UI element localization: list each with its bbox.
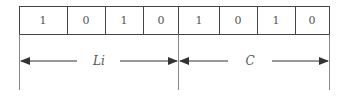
bit-cell-2: 1 [121, 14, 128, 27]
bit-cell-1: 0 [83, 14, 90, 27]
bit-field-diagram: 1 0 1 0 1 0 1 0 Li C [0, 0, 341, 98]
bit-cell-7: 0 [309, 14, 316, 27]
bit-row-border [20, 7, 330, 35]
field-label-c: C [245, 54, 254, 68]
bit-row [20, 7, 330, 35]
bit-cell-5: 0 [235, 14, 242, 27]
bit-cell-6: 1 [273, 14, 280, 27]
field-label-li: Li [92, 54, 105, 68]
bit-cell-4: 1 [196, 14, 203, 27]
bit-cell-0: 1 [40, 14, 47, 27]
extension-lines [20, 35, 330, 91]
bit-cell-3: 0 [158, 14, 165, 27]
